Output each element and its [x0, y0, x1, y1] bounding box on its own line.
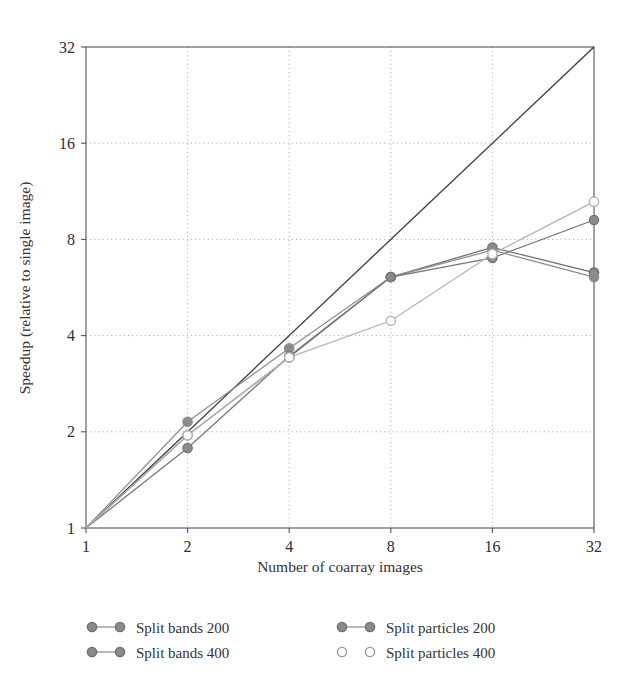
data-series-markers: [183, 197, 599, 453]
y-tick-label: 4: [67, 327, 75, 344]
y-tick-label: 32: [59, 39, 75, 56]
x-tick-label: 2: [184, 538, 192, 555]
legend-marker: [337, 622, 346, 631]
ideal-speedup-line: [86, 47, 594, 528]
legend-label: Split bands 200: [136, 620, 229, 636]
data-point: [183, 417, 192, 426]
x-axis-ticklabels: 12481632: [82, 538, 602, 555]
chart-legend: Split bands 200Split bands 400Split part…: [87, 620, 495, 661]
legend-marker: [365, 622, 374, 631]
data-point: [183, 431, 192, 440]
chart-canvas: 12481632 12481632 Number of coarray imag…: [0, 0, 636, 682]
x-tick-label: 1: [82, 538, 90, 555]
y-axis-ticklabels: 12481632: [59, 39, 75, 537]
data-point: [488, 249, 497, 258]
x-tick-label: 8: [387, 538, 395, 555]
legend-marker: [87, 647, 96, 656]
y-tick-label: 16: [59, 135, 75, 152]
legend-label: Split particles 400: [386, 645, 495, 661]
x-tick-label: 32: [586, 538, 602, 555]
x-axis-title: Number of coarray images: [257, 558, 423, 575]
legend-marker: [115, 647, 124, 656]
y-tick-label: 1: [67, 520, 75, 537]
data-point: [386, 272, 395, 281]
data-point: [589, 197, 598, 206]
data-series-lines: [86, 202, 594, 528]
x-tick-label: 4: [285, 538, 293, 555]
legend-marker: [115, 622, 124, 631]
y-tick-label: 2: [67, 423, 75, 440]
data-point: [589, 272, 598, 281]
legend-marker: [365, 647, 374, 656]
legend-marker: [87, 622, 96, 631]
legend-label: Split bands 400: [136, 645, 229, 661]
legend-label: Split particles 200: [386, 620, 495, 636]
data-point: [285, 353, 294, 362]
y-tick-label: 8: [67, 231, 75, 248]
y-axis-title: Speedup (relative to single image): [16, 182, 34, 395]
x-tick-label: 16: [484, 538, 500, 555]
legend-marker: [337, 647, 346, 656]
data-point: [183, 443, 192, 452]
data-point: [589, 215, 598, 224]
speedup-scaling-figure: 12481632 12481632 Number of coarray imag…: [0, 0, 636, 682]
data-point: [386, 316, 395, 325]
